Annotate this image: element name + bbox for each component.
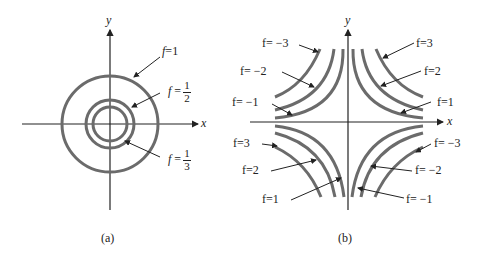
arrow-f1: [134, 57, 160, 77]
panel-b: [275, 49, 423, 197]
label-br-3: f= −3: [434, 137, 461, 149]
label-tl-2: f= −2: [240, 65, 267, 77]
label-tl-1: f= −1: [232, 96, 259, 108]
label-br-1: f= −1: [406, 193, 433, 205]
y-label-a: y: [106, 14, 111, 26]
label-f-third: f =13: [168, 148, 191, 172]
label-bl-2: f=2: [242, 164, 259, 176]
label-f-half: f =12: [168, 80, 191, 104]
y-label-b: y: [345, 14, 350, 26]
curve-bl-2: [275, 133, 335, 197]
arrow-f-half: [132, 93, 160, 107]
label-tr-1: f=1: [437, 96, 454, 108]
caption-b: (b): [338, 231, 352, 246]
x-label-b: x: [447, 115, 452, 127]
caption-a: (a): [101, 231, 114, 246]
label-f1: f=1: [162, 45, 178, 57]
curve-br-2: [361, 133, 423, 197]
diagram-canvas: [0, 0, 488, 253]
label-tl-3: f= −3: [262, 37, 289, 49]
label-tr-3: f=3: [416, 37, 433, 49]
x-label-a: x: [201, 117, 206, 129]
label-bl-1: f=1: [262, 193, 279, 205]
label-bl-3: f=3: [233, 137, 250, 149]
label-br-2: f= −2: [415, 164, 442, 176]
label-tr-2: f=2: [424, 65, 441, 77]
